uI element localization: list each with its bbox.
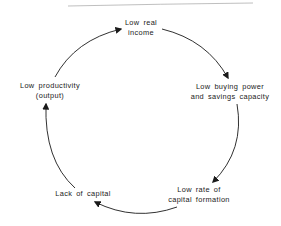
- node-label-line1: Low buying power: [191, 82, 270, 92]
- node-label-line2: and savings capacity: [191, 92, 270, 102]
- node-label-line1: Low productivity: [20, 81, 80, 91]
- node-label-line1: Low real: [125, 18, 157, 28]
- node-label-line2: (output): [20, 91, 80, 101]
- node-label-line1: Lack of capital: [55, 189, 111, 199]
- node-label-line2: income: [125, 28, 157, 38]
- node-low-productivity: Low productivity (output): [20, 81, 80, 101]
- node-lack-of-capital: Lack of capital: [55, 189, 111, 199]
- arrow-income-to-buying-power: [162, 29, 228, 78]
- node-low-real-income: Low real income: [125, 18, 157, 38]
- node-low-buying-power: Low buying power and savings capacity: [191, 82, 270, 102]
- node-label-line2: capital formation: [168, 195, 230, 205]
- arrow-productivity-to-income: [55, 29, 121, 77]
- vicious-cycle-diagram: Low real income Low buying power and sav…: [0, 0, 281, 226]
- arrow-buying-power-to-capital-formation: [213, 104, 239, 182]
- top-rule: [68, 3, 253, 6]
- arrow-capital-formation-to-lack-of-capital: [95, 202, 177, 213]
- node-label-line1: Low rate of: [168, 185, 230, 195]
- node-low-rate-capital-formation: Low rate of capital formation: [168, 185, 230, 205]
- arrow-lack-of-capital-to-productivity: [46, 104, 75, 188]
